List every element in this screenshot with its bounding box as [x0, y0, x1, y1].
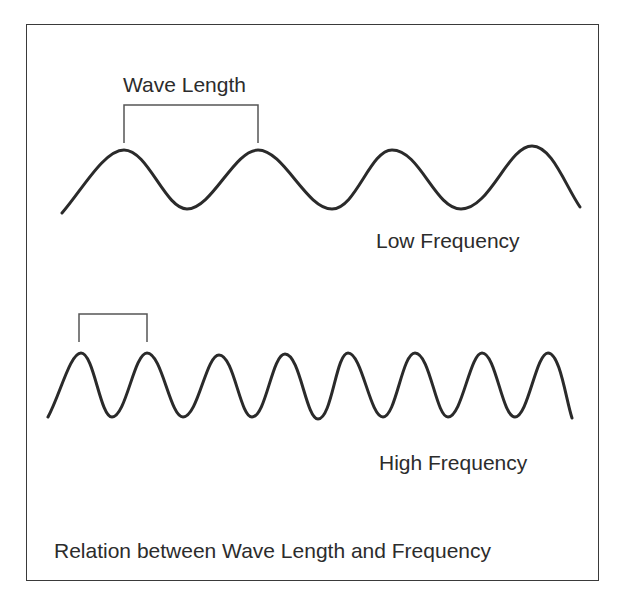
- low-frequency-wave: [62, 146, 580, 213]
- high-frequency-wave: [48, 353, 572, 419]
- wavelength-bracket-low: [124, 105, 258, 143]
- diagram-caption: Relation between Wave Length and Frequen…: [54, 540, 491, 561]
- low-frequency-label: Low Frequency: [376, 230, 520, 251]
- wavelength-label: Wave Length: [123, 74, 246, 95]
- wave-diagram: [0, 0, 622, 607]
- high-frequency-label: High Frequency: [379, 452, 527, 473]
- wavelength-bracket-high: [79, 314, 147, 342]
